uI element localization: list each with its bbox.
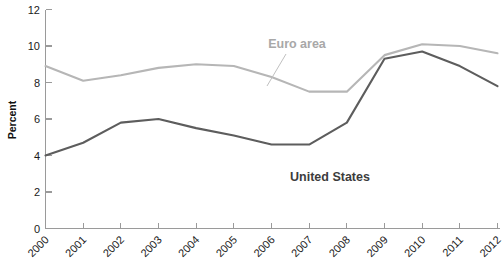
y-label-4: 4	[34, 150, 40, 162]
x-axis-ticks	[46, 223, 498, 229]
series-label-united-states: United States	[290, 170, 370, 184]
series-label-euro-area: Euro area	[268, 37, 327, 51]
x-label-2007: 2007	[289, 233, 315, 259]
y-label-8: 8	[34, 77, 40, 89]
y-label-2: 2	[34, 186, 40, 198]
chart-container: 12 10 8 6 4 2 0 Percent 2000200120022003…	[0, 0, 503, 279]
x-label-2011: 2011	[440, 233, 465, 258]
y-axis-title: Percent	[6, 100, 18, 139]
y-label-0: 0	[34, 223, 40, 235]
x-label-2001: 2001	[63, 233, 89, 259]
y-axis-labels: 12 10 8 6 4 2 0	[28, 4, 40, 235]
y-label-6: 6	[34, 113, 40, 125]
x-label-2002: 2002	[100, 233, 126, 259]
x-label-2003: 2003	[138, 233, 164, 259]
series-line-united-states	[46, 51, 498, 155]
x-label-2008: 2008	[326, 233, 352, 259]
series-line-euro-area	[46, 44, 498, 91]
x-label-2000: 2000	[25, 233, 51, 259]
x-label-2009: 2009	[364, 233, 390, 259]
y-axis-ticks	[46, 10, 53, 229]
x-label-2006: 2006	[251, 233, 277, 259]
x-label-2004: 2004	[176, 233, 202, 259]
y-label-12: 12	[28, 4, 40, 16]
line-chart: 12 10 8 6 4 2 0 Percent 2000200120022003…	[0, 0, 503, 279]
x-label-2005: 2005	[213, 233, 239, 259]
x-label-2010: 2010	[402, 233, 428, 259]
x-axis-labels: 2000200120022003200420052006200720082009…	[25, 233, 503, 259]
x-label-2012: 2012	[477, 233, 503, 259]
y-label-10: 10	[28, 40, 40, 52]
